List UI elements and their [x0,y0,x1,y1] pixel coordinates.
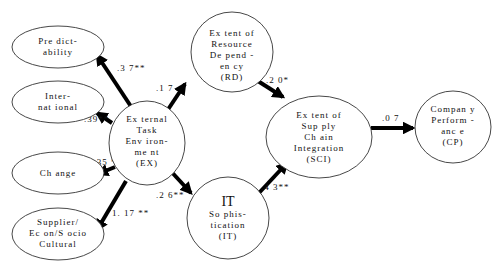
node-it-line-1: So phis- [209,209,247,219]
node-international: Inter- nat ional [12,81,104,123]
node-supplier-line-2: Ec on/S ocio [29,228,87,238]
node-ex-line-4: me nt [134,147,159,157]
node-cp-line-3: anc e [441,126,465,136]
coef-ex-supplier: 1. 17 ** [112,208,149,218]
path-model-diagram: .3 7** .39** 1.35 ** 1. 17 ** .1 7 .2 6*… [0,0,502,274]
node-sci-line-1: Ex tent of [296,110,342,120]
node-sci-line-3: Ch ain [304,132,334,142]
coef-it-sci: .4 3** [261,182,290,192]
node-predictability-line-1: Pre dict- [38,36,78,46]
node-it: IT So phis- tication (IT) [187,177,269,259]
node-cp-line-2: Perform - [431,115,475,125]
node-rd-line-2: Resource [211,39,253,49]
node-predictability: Pre dict- ability [12,26,104,68]
node-sci: Ex tent of Sup ply Ch ain Integration (S… [266,96,372,178]
node-supplier-line-1: Supplier/ [37,217,79,227]
node-international-line-1: Inter- [45,91,71,101]
node-cp-line-4: (CP) [442,137,463,147]
node-rd-line-1: Ex tent of [209,28,255,38]
node-ex-line-3: Env iron- [125,136,168,146]
node-it-title: IT [221,194,235,209]
node-rd-line-4: en cy [220,61,244,71]
node-rd-line-3: De pend - [210,50,255,60]
node-change-line-1: Ch ange [40,168,77,178]
node-ex-line-5: (EX) [136,158,158,168]
node-cp: Compan y Perform - anc e (CP) [415,91,491,163]
node-it-line-3: (IT) [219,231,238,241]
node-supplier: Supplier/ Ec on/S ocio Cultural [12,208,104,260]
edge-ex-supplier [97,181,126,230]
coef-ex-predictability: .3 7** [117,63,146,73]
node-predictability-line-2: ability [43,47,73,57]
node-change: Ch ange [12,152,104,194]
node-sci-line-4: Integration [294,143,345,153]
node-ex-line-2: Task [137,125,158,135]
node-international-line-2: nat ional [38,102,78,112]
node-rd: Ex tent of Resource De pend - en cy (RD) [191,12,273,92]
node-it-line-2: tication [211,220,246,230]
node-rd-line-5: (RD) [221,72,244,82]
coef-ex-it: .2 6** [156,190,185,200]
node-supplier-line-3: Cultural [39,239,77,249]
node-sci-line-2: Sup ply [302,121,337,131]
node-ex: Ex ternal Task Env iron- me nt (EX) [109,101,185,185]
node-sci-line-5: (SCI) [307,154,332,164]
node-ex-line-1: Ex ternal [126,114,168,124]
coef-ex-rd: .1 7 [156,83,174,93]
coef-rd-sci: .2 0* [266,75,289,85]
node-cp-line-1: Compan y [430,104,475,114]
coef-sci-cp: .0 7 [382,113,400,123]
